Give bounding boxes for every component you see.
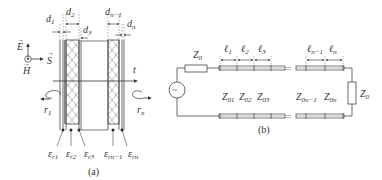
layer-stack-right [108, 40, 124, 130]
thickness-label-dn: dn [127, 18, 136, 31]
section-impedance-z01: Z01 [222, 91, 235, 104]
source-impedance-label: Z0 [193, 49, 203, 62]
caption-b: (b) [258, 124, 270, 136]
ac-source-symbol: ~ [173, 85, 178, 95]
field-vector-diagram: E → H → S → [16, 36, 54, 76]
length-label-l1: ℓ1 [224, 43, 232, 56]
layer-stack-left [60, 40, 81, 130]
length-label-l3: ℓ3 [258, 43, 266, 56]
rotation-arrow-left: r1 [41, 91, 60, 117]
rotation-arrow-right: rn [133, 91, 151, 117]
bottom-ellipsis: ::: [285, 112, 291, 120]
section-impedance-z0n: Z0n [324, 91, 337, 104]
permittivity-leader-lines [57, 130, 127, 146]
svg-text:→: → [17, 36, 24, 44]
section-impedance-z0n-1: Z0n−1 [296, 91, 317, 104]
thickness-label-dn-1: dn−1 [105, 6, 122, 19]
permittivity-label-er1: εr1 [48, 148, 58, 161]
figure-a-multilayer-structure: d1 d2 d3 dn−1 dn E → H → S → t r1 [16, 6, 151, 178]
rotation-label-r1: r1 [44, 104, 51, 117]
top-line-sections [219, 65, 344, 71]
load-impedance-label: Z0 [360, 88, 370, 101]
load-impedance-resistor [348, 82, 356, 104]
section-impedance-z02: Z02 [239, 91, 252, 104]
source-impedance-resistor [185, 65, 207, 72]
caption-a: (a) [88, 166, 99, 178]
length-label-l2: ℓ2 [241, 43, 249, 56]
bottom-line-sections [219, 113, 344, 119]
top-ellipsis: ::: [285, 64, 291, 72]
section-impedance-z03: Z03 [257, 91, 270, 104]
thickness-label-d3: d3 [83, 24, 92, 37]
length-dimension-guides [220, 56, 343, 65]
svg-text:→: → [47, 49, 54, 57]
figure-b-transmission-line-circuit: ~ Z0 ::: [169, 43, 370, 136]
svg-text:→: → [23, 60, 30, 68]
figure-canvas: d1 d2 d3 dn−1 dn E → H → S → t r1 [0, 0, 382, 180]
thickness-label-d2: d2 [66, 6, 75, 19]
t-axis-label: t [133, 64, 136, 75]
length-label-ln: ℓn [329, 43, 337, 56]
permittivity-label-er2: εr2 [66, 148, 77, 161]
permittivity-label-ern: εrn [128, 148, 139, 161]
rotation-label-rn: rn [137, 104, 145, 117]
length-label-ln-1: ℓn−1 [307, 43, 323, 56]
permittivity-label-ern-1: εrn−1 [104, 148, 122, 161]
permittivity-label-er3: εr3 [84, 148, 95, 161]
thickness-label-d1: d1 [46, 13, 55, 26]
